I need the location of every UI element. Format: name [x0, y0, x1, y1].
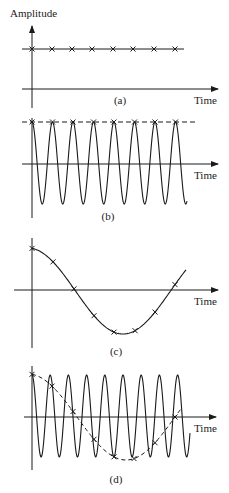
x-axis-label-c: Time — [194, 295, 217, 307]
x-axis-label-d: Time — [194, 422, 217, 434]
caption-b: (b) — [102, 210, 115, 223]
panel-b: (b) Time — [22, 118, 218, 223]
panel-a: (a) Time — [22, 26, 218, 108]
panel-d: (d) Time — [24, 366, 217, 486]
panel-c: (c) Time — [14, 238, 218, 358]
low-frequency-signal — [32, 248, 186, 334]
caption-d: (d) — [110, 473, 123, 486]
caption-c: (c) — [110, 345, 123, 358]
high-frequency-signal — [32, 375, 190, 457]
y-axis-label: Amplitude — [10, 7, 57, 19]
high-frequency-signal — [32, 122, 187, 204]
x-axis-label-b: Time — [194, 169, 217, 181]
aliasing-diagram: Amplitude (a) Time (b) Time (c) — [0, 0, 229, 493]
x-axis-label-a: Time — [194, 94, 217, 106]
caption-a: (a) — [114, 94, 127, 107]
